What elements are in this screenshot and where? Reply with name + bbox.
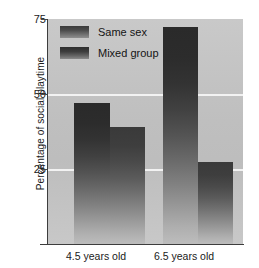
chart-legend: Same sex Mixed group (60, 24, 159, 66)
legend-swatch-same-sex-icon (60, 26, 89, 38)
bar-chart-figure: Percentage of social playtime 75 50 25 S… (0, 0, 259, 268)
y-axis-title: Percentage of social playtime (35, 24, 46, 224)
bar-mixed-group-4-5-years (110, 127, 145, 244)
legend-swatch-mixed-group-icon (60, 47, 89, 59)
legend-label-same-sex: Same sex (98, 26, 147, 38)
x-tick-label-4-5-years: 4.5 years old (60, 250, 132, 262)
legend-item-same-sex: Same sex (60, 24, 159, 39)
legend-item-mixed-group: Mixed group (60, 45, 159, 60)
bar-mixed-group-6-5-years (198, 162, 233, 244)
bar-same-sex-4-5-years (74, 103, 110, 244)
x-axis-line (40, 244, 244, 245)
y-axis-line (47, 19, 48, 245)
x-tick-label-6-5-years: 6.5 years old (148, 250, 220, 262)
bar-same-sex-6-5-years (163, 27, 198, 244)
legend-label-mixed-group: Mixed group (98, 47, 159, 59)
gridline-50 (48, 94, 243, 96)
